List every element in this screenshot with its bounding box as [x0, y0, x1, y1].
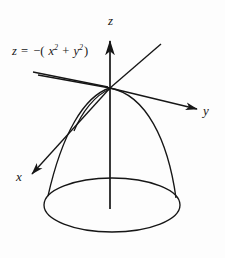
equation-plus: +: [61, 44, 70, 58]
equation-lhs: z: [12, 44, 17, 58]
y-axis-label: y: [203, 104, 209, 117]
equation-leader-line: [33, 72, 108, 87]
equation-minus-open: −(: [32, 44, 45, 58]
x-axis-line: [32, 88, 110, 174]
y-axis-line: [110, 88, 197, 109]
equation-annotation: z = −( x2 + y2): [12, 45, 89, 58]
figure-canvas: z y x z = −( x2 + y2): [0, 0, 225, 258]
negative-y-axis-extension: [38, 75, 110, 88]
parabola-left-branch: [48, 88, 110, 196]
equation-term-x-exponent: 2: [54, 43, 58, 52]
negative-x-axis-extension: [110, 44, 161, 88]
equation-equals: =: [20, 44, 29, 58]
z-axis-label: z: [108, 14, 113, 27]
apex-cross-section-arc: [74, 89, 110, 131]
base-ellipse: [44, 178, 180, 232]
equation-close-paren: ): [83, 44, 89, 58]
paraboloid-diagram: [0, 0, 225, 258]
x-axis-label: x: [16, 170, 22, 183]
